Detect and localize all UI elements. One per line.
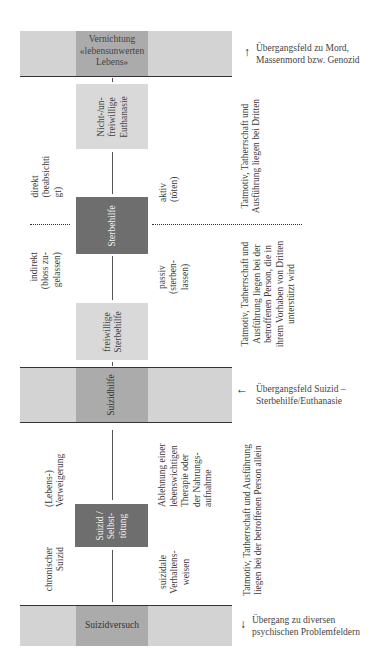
transition-middle: ← Übergangsfeld Suizid – Sterbehilfe/Eut… (236, 383, 386, 409)
note-third-party: Tatmotiv, Tatherrschaft und Ausführung l… (236, 96, 266, 216)
connector (112, 78, 113, 82)
band-suizidhilfe: Suizidhilfe (20, 367, 232, 423)
label-chronischer-suizid: chronischer Suizid (42, 547, 68, 597)
band-vernichtung-label: Vernichtung «lebensunwerten Lebens» (76, 34, 148, 69)
band-suizidhilfe-center: Suizidhilfe (76, 368, 148, 422)
band-suizidversuch-label: Suizidversuch (76, 620, 148, 632)
connector (112, 430, 113, 500)
label-passiv: passiv (sterben- lassen) (156, 255, 192, 299)
label-suizidale-verhaltensweisen: suizidale Verhaltens- weisen (156, 547, 194, 597)
transition-top: ↑ Übergangsfeld zu Mord, Massenmord bzw.… (244, 42, 384, 68)
connector (112, 152, 113, 194)
divider-aktiv-passiv-left (30, 224, 70, 225)
connector (112, 550, 113, 602)
divider-aktiv-passiv-right (152, 224, 302, 225)
band-suizidversuch: Suizidversuch (20, 605, 232, 646)
connector (112, 362, 113, 366)
label-lebens-verweigerung: (Lebens-) Verweigerung (42, 447, 68, 507)
note-self: Tatmotiv, Tatherrschaft und Ausführung l… (238, 440, 268, 600)
label-aktiv: aktiv (töten) (156, 168, 182, 202)
arrow-up-icon: ↑ (244, 46, 250, 58)
arrow-left-icon: ← (236, 383, 248, 395)
transition-bottom: ↓ Übergang zu diversen psychischen Probl… (240, 614, 390, 640)
box-suizid-selbsttoetung: Suizid / Selbst- tötung (75, 504, 148, 547)
box-freiwillige-sterbehilfe: freiwillige Sterbehilfe (76, 303, 148, 360)
label-indirekt: indirekt (bloss zu- gelassen) (28, 252, 64, 300)
band-vernichtung: Vernichtung «lebensunwerten Lebens» (20, 31, 232, 77)
label-direkt: direkt (beabsichti gt) (28, 153, 64, 198)
label-ablehnung-therapie: Ablehnung einer lebenswichtigen Therapie… (156, 435, 216, 507)
box-sterbehilfe: Sterbehilfe (76, 197, 148, 254)
connector (112, 256, 113, 300)
arrow-down-icon: ↓ (240, 618, 246, 630)
note-assisted: Tatmotiv, Tatherrschaft und Ausführung l… (238, 234, 300, 354)
box-nicht-freiwillige-euthanasie: Nicht-/un- freiwillige Euthanasie (76, 84, 148, 149)
